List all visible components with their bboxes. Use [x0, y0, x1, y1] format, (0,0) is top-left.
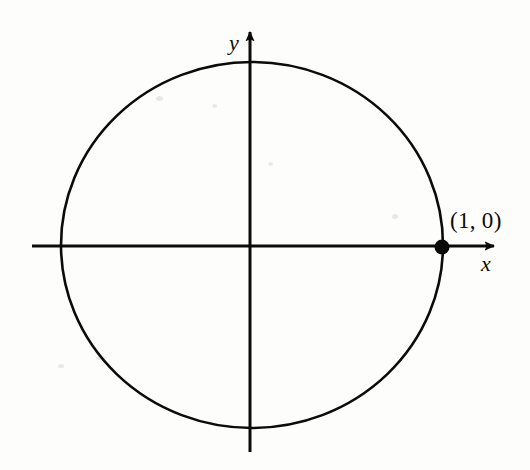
- point-one-zero-marker: [435, 240, 450, 255]
- x-axis-label: x: [480, 251, 491, 276]
- point-one-zero-label: (1, 0): [450, 208, 502, 233]
- figure-canvas: (1, 0) x y: [0, 0, 530, 470]
- y-axis-label: y: [227, 30, 239, 55]
- unit-circle-figure: (1, 0) x y: [0, 0, 530, 470]
